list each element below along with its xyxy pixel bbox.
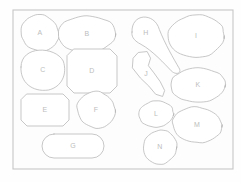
- shape-label-e: E: [43, 106, 48, 113]
- shape-label-j: J: [144, 70, 148, 77]
- shape-label-l: L: [154, 110, 158, 117]
- shape-label-c: C: [40, 66, 45, 73]
- shape-label-h: H: [143, 29, 148, 36]
- shape-label-m: M: [194, 121, 200, 128]
- shape-label-d: D: [89, 67, 94, 74]
- shape-label-g: G: [70, 142, 76, 149]
- shape-label-f: F: [94, 106, 98, 113]
- shape-label-a: A: [38, 29, 43, 36]
- shape-label-i: I: [195, 32, 197, 39]
- shape-label-k: K: [196, 81, 201, 88]
- shape-label-b: B: [85, 30, 90, 37]
- shapes-diagram: ABCDEFGHIJKLMN: [0, 0, 241, 182]
- shape-label-n: N: [157, 143, 162, 150]
- diagram-canvas: ABCDEFGHIJKLMN: [0, 0, 241, 182]
